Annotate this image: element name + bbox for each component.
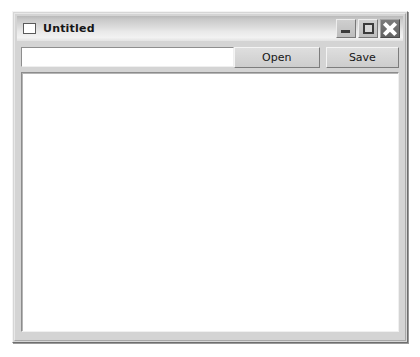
open-button[interactable]: Open: [234, 47, 320, 68]
text-editor-inner[interactable]: [22, 73, 398, 331]
titlebar[interactable]: Untitled: [17, 16, 403, 41]
toolbar: Open Save: [19, 44, 401, 70]
application-window: Untitled Open Save: [12, 11, 408, 343]
window-inner-frame: Untitled Open Save: [14, 13, 406, 341]
text-editor-area[interactable]: [21, 72, 399, 332]
window-title: Untitled: [43, 22, 336, 35]
window-icon: [23, 23, 36, 34]
close-button[interactable]: [380, 19, 400, 38]
window-controls: [336, 19, 400, 38]
maximize-button[interactable]: [358, 19, 378, 38]
text-editor-content[interactable]: [23, 74, 398, 78]
file-path-input[interactable]: [21, 47, 234, 67]
maximize-icon: [363, 23, 374, 34]
minimize-button[interactable]: [336, 19, 356, 38]
save-button[interactable]: Save: [326, 47, 399, 68]
minimize-icon: [341, 30, 350, 33]
